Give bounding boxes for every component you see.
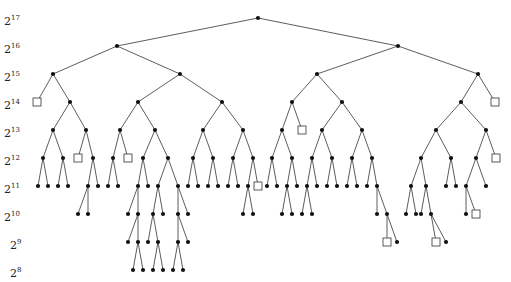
dot-node <box>300 212 304 216</box>
tree-edge <box>243 130 253 158</box>
tree-edge <box>128 214 138 242</box>
tree-edge <box>287 158 292 186</box>
tree-edge <box>451 158 456 186</box>
dot-node <box>126 212 130 216</box>
tree-edge <box>421 186 426 214</box>
tree-edge <box>322 130 332 158</box>
tree-edge <box>233 158 238 186</box>
dot-node <box>256 16 260 20</box>
tree-edge <box>317 74 342 102</box>
dot-node <box>86 184 90 188</box>
tree-edge <box>406 186 411 214</box>
tree-edge <box>78 186 88 214</box>
tree-edge <box>421 158 426 186</box>
dot-node <box>118 128 122 132</box>
dot-node <box>429 212 433 216</box>
dot-node <box>335 184 339 188</box>
dot-node <box>330 156 334 160</box>
dot-node <box>241 212 245 216</box>
tree-edge <box>158 186 163 214</box>
tree-edge <box>120 102 138 130</box>
dot-node <box>226 184 230 188</box>
dot-node <box>270 156 274 160</box>
tree-edge <box>411 186 416 214</box>
tree-edge <box>243 186 248 214</box>
dot-node <box>220 100 224 104</box>
tree-edge <box>426 186 431 214</box>
tree-edge <box>446 158 451 186</box>
dot-node <box>181 268 185 272</box>
dot-node <box>231 156 235 160</box>
dot-node <box>419 212 423 216</box>
tree-edge <box>272 130 282 158</box>
dot-node <box>176 212 180 216</box>
dot-node <box>375 212 379 216</box>
square-leaf-node <box>472 210 480 218</box>
tree-edge <box>117 18 258 46</box>
dot-node <box>96 184 100 188</box>
dot-node <box>161 212 165 216</box>
dot-node <box>211 156 215 160</box>
tree-edge <box>93 158 98 186</box>
tree-edge <box>173 242 178 270</box>
tree-edge <box>258 18 398 46</box>
tree-edge <box>158 158 168 186</box>
tree-edge <box>282 102 292 130</box>
dot-node <box>186 240 190 244</box>
dot-node <box>396 44 400 48</box>
dot-node <box>51 128 55 132</box>
tree-edge <box>248 158 253 186</box>
tree-edge <box>327 158 332 186</box>
dot-node <box>310 212 314 216</box>
square-leaf-node <box>74 154 82 162</box>
dot-node <box>56 184 60 188</box>
dot-node <box>275 184 279 188</box>
square-leaf-node <box>33 98 41 106</box>
tree-edge <box>180 74 222 102</box>
tree-edge <box>332 158 337 186</box>
tree-edge <box>43 130 53 158</box>
dot-node <box>454 184 458 188</box>
dot-node <box>136 240 140 244</box>
tree-edge <box>352 130 362 158</box>
dot-node <box>153 128 157 132</box>
square-leaf-node <box>383 238 391 246</box>
dot-node <box>126 240 130 244</box>
tree-edge <box>153 186 158 214</box>
tree-edge <box>58 158 63 186</box>
tree-edge <box>282 130 292 158</box>
tree-edge <box>213 158 218 186</box>
tree-edge <box>476 130 486 158</box>
tree-edge <box>292 158 297 186</box>
tree-edge <box>168 158 178 186</box>
tree-edge <box>208 158 213 186</box>
dot-node <box>166 156 170 160</box>
dot-node <box>86 212 90 216</box>
tree-edge <box>421 130 436 158</box>
tree-edge <box>461 74 478 102</box>
tree-edge <box>148 214 153 242</box>
dot-node <box>350 156 354 160</box>
tree-edge <box>53 130 63 158</box>
dot-node <box>476 72 480 76</box>
tree-edges <box>37 18 496 270</box>
dot-node <box>395 240 399 244</box>
square-leaf-node <box>254 182 262 190</box>
dot-node <box>464 212 468 216</box>
tree-edge <box>398 46 478 74</box>
dot-node <box>474 156 478 160</box>
dot-node <box>444 240 448 244</box>
tree-edge <box>203 102 222 130</box>
dot-node <box>206 184 210 188</box>
dot-node <box>290 100 294 104</box>
dot-node <box>171 268 175 272</box>
tree-edge <box>233 130 243 158</box>
dot-node <box>111 156 115 160</box>
tree-edge <box>133 242 138 270</box>
tree-edge <box>53 46 117 74</box>
dot-node <box>41 156 45 160</box>
dot-node <box>66 184 70 188</box>
tree-edge <box>203 130 213 158</box>
tree-edge <box>267 158 272 186</box>
dot-node <box>141 268 145 272</box>
